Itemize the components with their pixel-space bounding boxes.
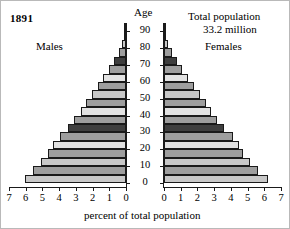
pyramid-bar [60,132,126,140]
pyramid-bar [41,158,126,166]
pyramid-bar [164,175,268,183]
pyramid-row [9,158,126,166]
age-tick [126,48,130,49]
x-tick-label: 0 [119,192,133,203]
x-tick-label: 4 [224,192,238,203]
pyramid-bar [164,82,194,90]
pyramid-bar [164,99,206,107]
x-tick-label: 6 [257,192,271,203]
x-tick [181,187,182,191]
pyramid-row [9,175,126,183]
age-tick [160,48,164,49]
pyramid-bar [53,141,126,149]
pyramid-bar [109,65,126,73]
x-tick [248,187,249,191]
pyramid-row [164,132,281,140]
x-tick [9,187,10,191]
pyramid-row [9,57,126,65]
pyramid-bar [164,31,166,39]
males-bars-group [9,23,126,183]
age-tick [160,82,164,83]
age-tick-label: 50 [136,92,154,103]
pyramid-bar [33,166,126,174]
pyramid-bar [103,74,126,82]
pyramid-bar [25,175,126,183]
pyramid-bar [48,149,126,157]
x-tick-label: 1 [102,192,116,203]
age-tick [126,132,130,133]
x-tick [281,187,282,191]
pyramid-bar [92,90,126,98]
pyramid-row [9,90,126,98]
pyramid-row [164,158,281,166]
pyramid-bar [68,124,127,132]
pyramid-row [164,99,281,107]
x-tick-label: 3 [207,192,221,203]
x-tick [93,187,94,191]
age-tick [126,65,130,66]
pyramid-row [164,141,281,149]
pyramid-bar [119,48,126,56]
pyramid-bar [74,116,126,124]
age-tick-label: 0 [136,176,154,187]
pyramid-bar [164,158,250,166]
age-tick-label: 10 [136,159,154,170]
age-tick [160,65,164,66]
x-tick [197,187,198,191]
pyramid-row [164,166,281,174]
x-tick-label: 3 [69,192,83,203]
pyramid-bar [164,57,177,65]
pyramid-row [9,107,126,115]
pyramid-row [9,141,126,149]
age-tick [160,132,164,133]
x-tick-label: 7 [274,192,288,203]
pyramid-row [164,116,281,124]
pyramid-row [164,31,281,39]
x-tick [109,187,110,191]
pyramid-bar [81,107,126,115]
pyramid-bar [164,90,200,98]
pyramid-row [164,124,281,132]
x-tick-label: 6 [19,192,33,203]
x-tick [264,187,265,191]
age-tick-label: 40 [136,109,154,120]
pyramid-row [9,31,126,39]
pyramid-row [164,90,281,98]
x-tick [76,187,77,191]
pyramid-bar [164,40,168,48]
pyramid-row [9,40,126,48]
x-tick [214,187,215,191]
x-tick [26,187,27,191]
pyramid-bar [164,74,188,82]
age-tick [160,116,164,117]
pyramid-row [9,149,126,157]
pyramid-bar [164,124,224,132]
population-pyramid-plot: 76543210 01234567 0102030405060708090 [0,0,290,229]
age-tick [160,183,164,184]
pyramid-row [164,65,281,73]
x-tick [164,187,165,191]
females-bars-group [164,23,281,183]
pyramid-row [164,40,281,48]
pyramid-bar [164,149,243,157]
age-tick-label: 90 [136,24,154,35]
pyramid-row [164,82,281,90]
age-tick-label: 20 [136,142,154,153]
x-tick-label: 2 [190,192,204,203]
age-tick [160,99,164,100]
pyramid-row [9,74,126,82]
x-tick-label: 4 [52,192,66,203]
pyramid-bar [164,65,182,73]
pyramid-row [9,65,126,73]
age-tick-label: 80 [136,41,154,52]
x-tick-label: 7 [2,192,16,203]
pyramid-bar [114,57,126,65]
pyramid-row [9,124,126,132]
x-tick-label: 5 [241,192,255,203]
x-tick [126,187,127,191]
age-tick [160,149,164,150]
age-tick [160,31,164,32]
age-tick [126,82,130,83]
pyramid-row [9,116,126,124]
age-tick-label: 70 [136,58,154,69]
